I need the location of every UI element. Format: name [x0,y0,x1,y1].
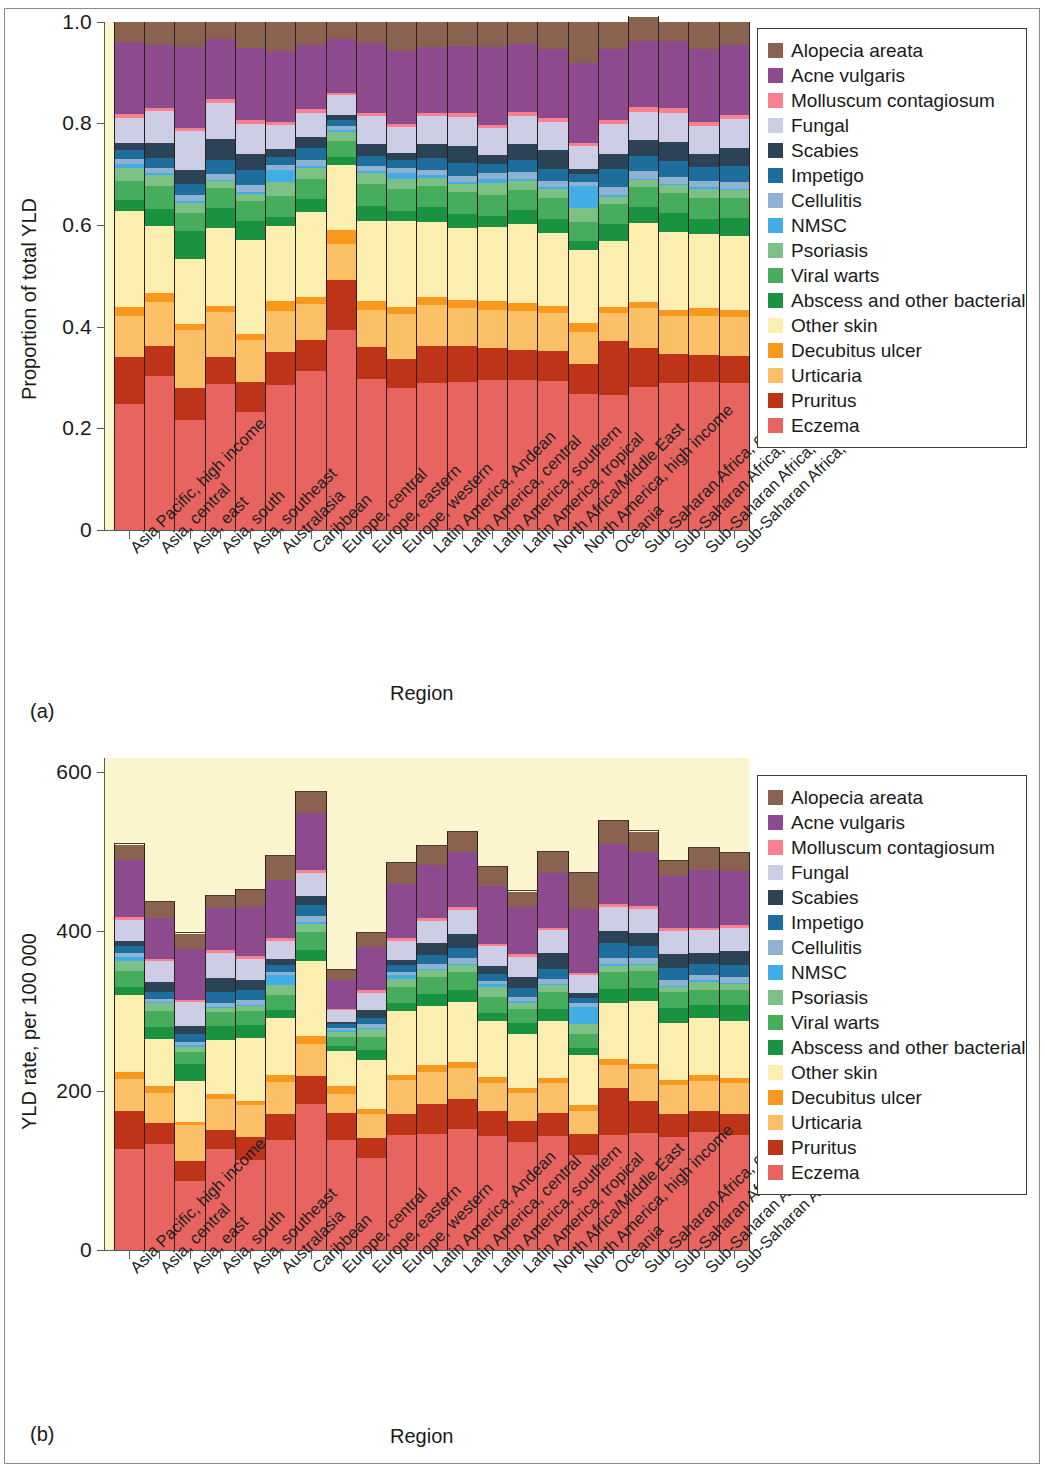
bar-segment [417,943,446,955]
bar-segment [175,934,204,949]
bar-segment [629,832,658,852]
bar-segment [538,306,567,313]
legend-item[interactable]: Urticaria [768,1110,1014,1135]
x-axis-tick [220,1251,221,1259]
legend-item[interactable]: Other skin [768,1060,1014,1085]
bar-segment [327,165,356,230]
stacked-bar[interactable] [114,22,145,530]
legend-item[interactable]: Other skin [768,313,1014,338]
stacked-bar[interactable] [265,22,296,530]
stacked-bar[interactable] [356,22,387,530]
legend-item[interactable]: Scabies [768,885,1014,910]
bar-segment [175,170,204,184]
bar-segment [659,931,688,953]
stacked-bar[interactable] [447,22,478,530]
panel-b-ytick-400 [97,931,104,932]
stacked-bar[interactable] [386,22,417,530]
bar-segment [448,46,477,113]
bar-segment [115,200,144,210]
legend-item[interactable]: Molluscum contagiosum [768,88,1014,113]
legend-item[interactable]: Fungal [768,113,1014,138]
legend-item[interactable]: Pruritus [768,388,1014,413]
stacked-bar[interactable] [326,22,357,530]
bar-segment [145,158,174,168]
bar-segment [689,189,718,198]
bar-segment [659,193,688,213]
bar-segment [629,223,658,302]
legend-item[interactable]: Psoriasis [768,238,1014,263]
bar-segment [115,1079,144,1111]
stacked-bar[interactable] [144,901,175,1250]
legend-item[interactable]: Abscess and other bacterial [768,1035,1014,1060]
bar-segment [538,930,567,953]
legend-item[interactable]: Pruritus [768,1135,1014,1160]
bar-segment [538,150,567,169]
legend-item-label: Urticaria [791,1113,862,1132]
bar-segment [448,965,477,972]
bar-segment [417,1006,446,1065]
bar-segment [266,1114,295,1141]
legend-item[interactable]: Alopecia areata [768,785,1014,810]
bar-segment [296,297,325,305]
legend-item[interactable]: NMSC [768,213,1014,238]
bar-segment [266,985,295,995]
x-axis-tick [613,1251,614,1259]
stacked-bar[interactable] [265,855,296,1250]
stacked-bar[interactable] [235,889,266,1250]
legend-item[interactable]: Molluscum contagiosum [768,835,1014,860]
bar-segment [175,131,204,170]
legend-item[interactable]: Eczema [768,1160,1014,1185]
bar-segment [266,51,295,122]
legend-item[interactable]: Abscess and other bacterial [768,288,1014,313]
bar-segment [508,957,537,976]
bar-segment [387,160,416,169]
legend-item[interactable]: Urticaria [768,363,1014,388]
x-tick-label: Sub-Saharan Africa, east [671,1263,685,1277]
bar-segment [236,1038,265,1101]
stacked-bar[interactable] [144,22,175,530]
bar-segment [629,180,658,188]
legend-item[interactable]: Decubitus ulcer [768,338,1014,363]
bar-segment [417,178,446,187]
stacked-bar[interactable] [477,22,508,530]
stacked-bar[interactable] [295,22,326,530]
bar-segment [236,170,265,185]
legend-item[interactable]: Impetigo [768,910,1014,935]
bar-segment [448,184,477,193]
stacked-bar[interactable] [174,22,205,530]
legend-item[interactable]: Psoriasis [768,985,1014,1010]
legend-item[interactable]: NMSC [768,960,1014,985]
stacked-bar[interactable] [416,22,447,530]
legend-item[interactable]: Decubitus ulcer [768,1085,1014,1110]
bar-segment [599,844,628,904]
legend-item[interactable]: Scabies [768,138,1014,163]
legend-item[interactable]: Fungal [768,860,1014,885]
legend-swatch-icon [768,418,783,433]
legend-item[interactable]: Viral warts [768,263,1014,288]
bar-segment [115,118,144,143]
legend-item[interactable]: Cellulitis [768,188,1014,213]
x-tick-label: Sub-Saharan Africa, central [640,543,654,557]
bar-segment [689,990,718,1006]
legend-item[interactable]: Acne vulgaris [768,810,1014,835]
legend-item[interactable]: Viral warts [768,1010,1014,1035]
stacked-bar[interactable] [295,791,326,1250]
bar-segment [720,166,749,182]
legend-item[interactable]: Alopecia areata [768,38,1014,63]
bar-segment [296,1036,325,1043]
legend-item[interactable]: Impetigo [768,163,1014,188]
bar-segment [387,884,416,938]
bar-segment [145,1011,174,1028]
stacked-bar[interactable] [114,843,145,1250]
bar-segment [115,987,144,995]
legend-item[interactable]: Eczema [768,413,1014,438]
legend-item[interactable]: Cellulitis [768,935,1014,960]
legend-item[interactable]: Acne vulgaris [768,63,1014,88]
stacked-bar[interactable] [326,969,357,1250]
bar-segment [236,221,265,240]
stacked-bar[interactable] [356,932,387,1250]
bar-segment [266,880,295,938]
legend-item-label: Other skin [791,316,878,335]
bar-segment [236,22,265,47]
bar-segment [508,988,537,997]
